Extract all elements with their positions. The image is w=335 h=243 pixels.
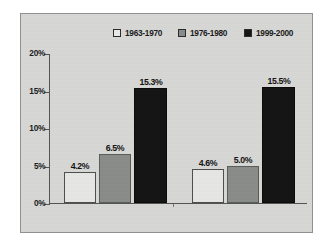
bar-value-12-19-1963-1970: 4.6%	[199, 157, 217, 168]
plot-area: 20% 15% 10% 5% 0% 4.2%	[49, 54, 307, 204]
legend-item-1963-1970: 1963-1970	[113, 28, 165, 38]
bar-6-11-1976-1980: 6.5%	[99, 154, 131, 203]
bar-12-19-1963-1970: 4.6%	[192, 169, 224, 204]
legend-swatch-black-icon	[244, 29, 252, 37]
legend-label-1976-1980: 1976-1980	[190, 28, 227, 38]
chart-frame: 1963-1970 1976-1980 1999-2000 20% 15%	[20, 13, 313, 233]
legend-label-1999-2000: 1999-2000	[256, 28, 293, 38]
y-tick-label-15: 15%	[29, 86, 45, 96]
x-axis-line	[49, 203, 307, 204]
bar-value-12-19-1976-1980: 5.0%	[234, 154, 252, 165]
chart-page: 1963-1970 1976-1980 1999-2000 20% 15%	[0, 0, 335, 243]
legend-item-1976-1980: 1976-1980	[178, 28, 230, 38]
bar-value-6-11-1976-1980: 6.5%	[106, 142, 124, 153]
legend-item-1999-2000: 1999-2000	[244, 28, 296, 38]
legend-swatch-gray-icon	[178, 29, 186, 37]
chart-legend: 1963-1970 1976-1980 1999-2000	[113, 28, 296, 38]
bar-value-12-19-1999-2000: 15.5%	[267, 75, 290, 86]
bar-12-19-1976-1980: 5.0%	[227, 166, 259, 204]
bar-6-11-1999-2000: 15.3%	[134, 88, 167, 203]
bar-value-6-11-1999-2000: 15.3%	[139, 76, 162, 87]
bar-value-6-11-1963-1970: 4.2%	[71, 160, 89, 171]
y-tick-label-20: 20%	[29, 48, 45, 58]
legend-label-1963-1970: 1963-1970	[125, 28, 162, 38]
y-tick-label-0: 0%	[34, 198, 45, 208]
y-tick-label-5: 5%	[34, 161, 45, 171]
axis-mid-tick	[173, 204, 174, 207]
bar-12-19-1999-2000: 15.5%	[262, 87, 295, 203]
bar-6-11-1963-1970: 4.2%	[64, 172, 96, 204]
y-tick-label-10: 10%	[29, 123, 45, 133]
legend-swatch-white-icon	[113, 29, 121, 37]
